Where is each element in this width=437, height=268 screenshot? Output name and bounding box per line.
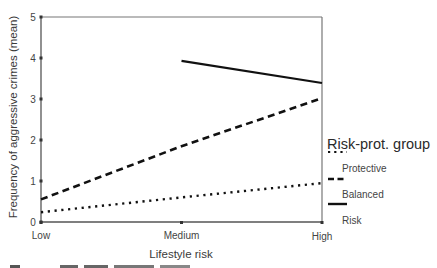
plot-area — [41, 17, 322, 222]
y-tick-mark — [40, 98, 43, 101]
x-tick-mark — [40, 221, 43, 224]
y-tick-mark — [40, 16, 43, 19]
data-series — [41, 61, 322, 212]
y-tick-mark — [40, 57, 43, 60]
x-tick-label: Low — [32, 230, 51, 241]
y-tick-mark — [40, 139, 43, 142]
series-line-balanced — [41, 98, 322, 199]
line-chart: 012345 LowMediumHigh Lifestyle risk Freq… — [0, 0, 437, 268]
legend-label-protective: Protective — [342, 163, 387, 174]
legend-label-balanced: Balanced — [342, 189, 384, 200]
legend: Risk-prot. group Protective Balanced Ris… — [327, 136, 430, 226]
x-axis-ticks: LowMediumHigh — [32, 221, 332, 242]
x-tick-mark — [321, 221, 324, 224]
x-tick-label: High — [312, 231, 333, 242]
legend-title: Risk-prot. group — [327, 136, 430, 152]
y-tick-label: 5 — [30, 12, 36, 23]
series-line-risk — [182, 61, 323, 83]
legend-label-risk: Risk — [342, 215, 362, 226]
x-tick-mark — [180, 221, 183, 224]
y-tick-mark — [40, 180, 43, 183]
y-tick-label: 0 — [30, 217, 36, 228]
y-axis-title: Frequency of aggressive crimes (mean) — [7, 16, 19, 219]
x-tick-label: Medium — [164, 230, 200, 241]
y-tick-label: 3 — [30, 94, 36, 105]
y-tick-label: 2 — [30, 135, 36, 146]
series-line-protective — [41, 183, 322, 212]
clipped-caption — [10, 263, 210, 268]
y-tick-label: 4 — [30, 53, 36, 64]
x-axis-title: Lifestyle risk — [149, 248, 213, 260]
y-tick-label: 1 — [30, 176, 36, 187]
